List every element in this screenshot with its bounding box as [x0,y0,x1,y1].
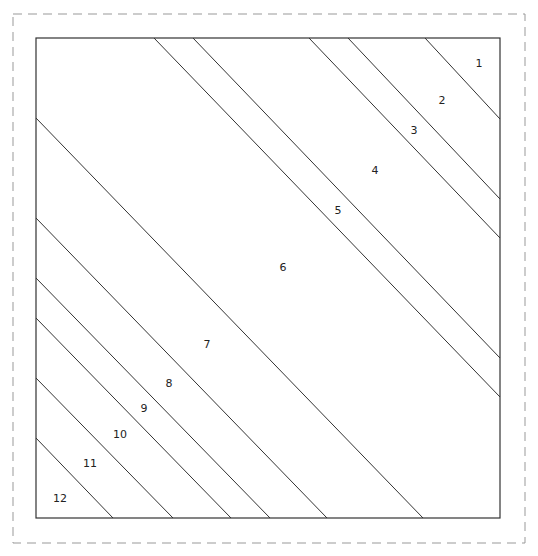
square-outline [36,38,500,518]
region-label: 11 [83,457,97,470]
diagonal-strip-diagram: 123456789101112 [0,0,538,556]
region-label: 7 [204,338,211,351]
region-label: 10 [113,428,127,441]
region-label: 5 [335,204,342,217]
region-label: 3 [411,124,418,137]
region-label: 8 [166,377,173,390]
region-label: 6 [280,261,287,274]
region-label: 1 [476,57,483,70]
region-label: 9 [141,402,148,415]
region-label: 4 [372,164,379,177]
region-label: 2 [439,94,446,107]
region-label: 12 [53,492,67,505]
